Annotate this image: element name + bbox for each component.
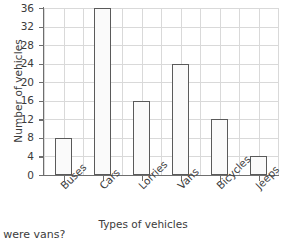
y-tick: [39, 64, 44, 65]
gridline-vertical: [83, 8, 84, 175]
footer-note: s were vans?: [0, 228, 65, 239]
gridline-vertical: [259, 8, 260, 175]
y-tick: [39, 45, 44, 46]
y-tick: [39, 119, 44, 120]
gridline-vertical: [122, 8, 123, 175]
y-axis-line: [43, 7, 44, 176]
y-tick: [39, 175, 44, 176]
y-tick-label: 12: [4, 114, 34, 125]
y-tick-label: 28: [4, 40, 34, 51]
bar-vans: [172, 64, 190, 175]
gridline-vertical: [161, 8, 162, 175]
gridline-vertical: [278, 8, 279, 175]
gridline-vertical: [239, 8, 240, 175]
y-tick: [39, 156, 44, 157]
gridline-vertical: [200, 8, 201, 175]
bar-bicycles: [211, 119, 229, 175]
y-tick: [39, 27, 44, 28]
y-tick-label: 24: [4, 58, 34, 69]
y-tick: [39, 101, 44, 102]
y-tick-label: 20: [4, 77, 34, 88]
y-tick-label: 8: [4, 132, 34, 143]
y-tick-label: 36: [4, 3, 34, 14]
y-tick: [39, 8, 44, 9]
y-tick-label: 0: [4, 170, 34, 181]
y-axis-title: Number of vehicles: [12, 11, 24, 171]
y-tick: [39, 82, 44, 83]
plot-area: [44, 8, 278, 175]
y-tick-label: 16: [4, 95, 34, 106]
y-tick: [39, 138, 44, 139]
bar-cars: [94, 8, 112, 175]
bar-lorries: [133, 101, 151, 175]
y-tick-label: 32: [4, 21, 34, 32]
bar-chart: Number of vehicles 04812162024283236 Bus…: [0, 0, 286, 239]
y-tick-label: 4: [4, 151, 34, 162]
